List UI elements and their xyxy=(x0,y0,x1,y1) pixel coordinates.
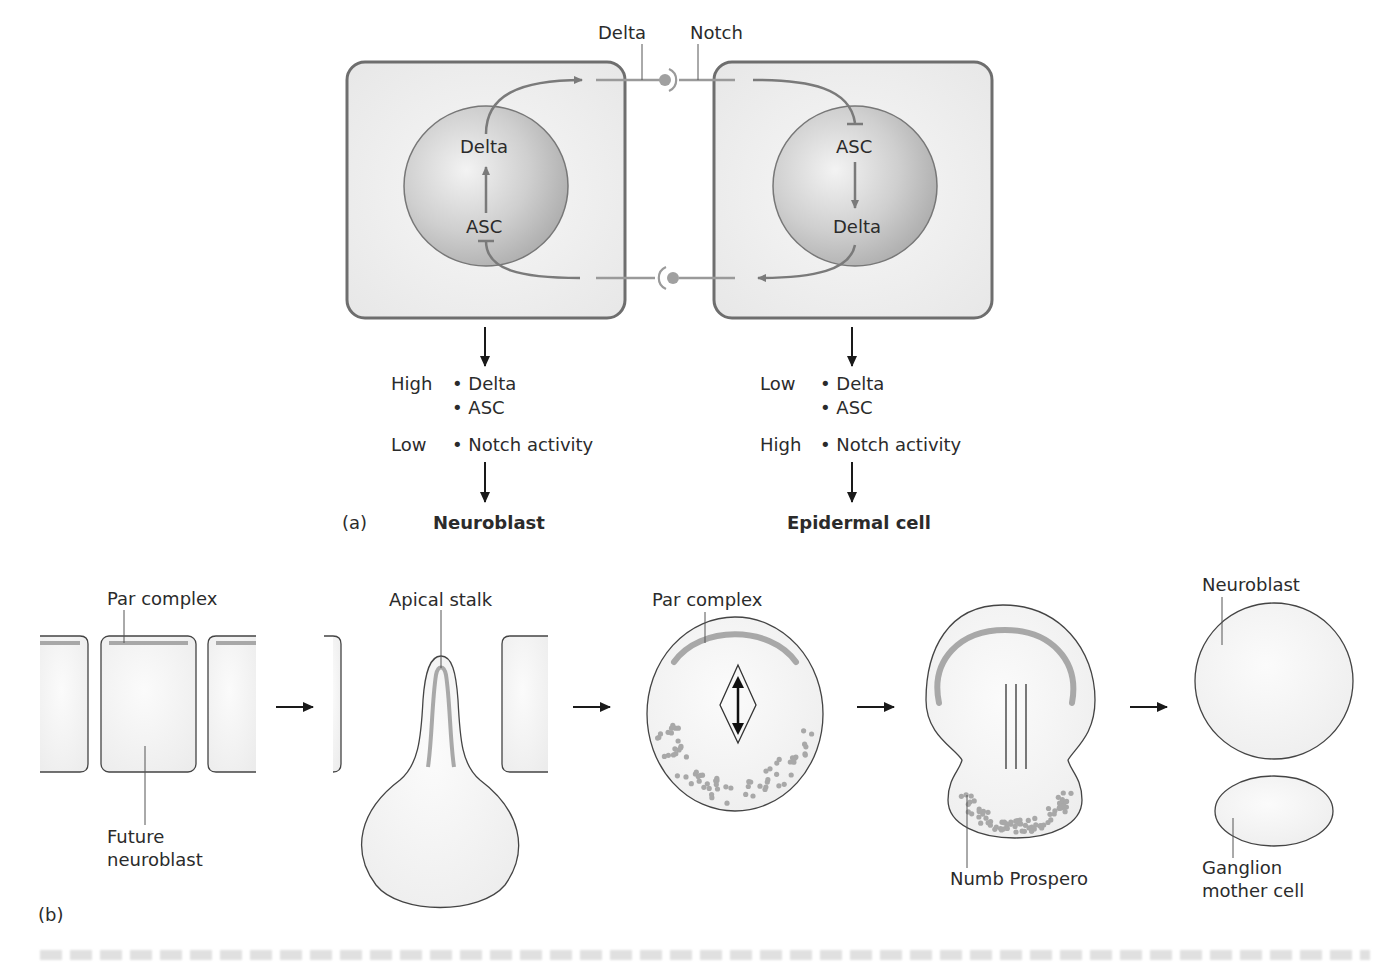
numb-prospero-dot xyxy=(676,738,681,743)
notch-receptor-cup-bottom xyxy=(659,267,666,289)
left-level-high: High xyxy=(391,373,432,394)
numb-prospero-dot xyxy=(669,730,674,735)
numb-prospero-dot xyxy=(803,744,808,749)
numb-prospero-dot xyxy=(969,811,974,816)
numb-prospero-dot xyxy=(765,777,770,782)
numb-prospero-dot xyxy=(801,728,806,733)
numb-prospero-dot xyxy=(992,827,997,832)
neuroblast-fate-label: Neuroblast xyxy=(433,512,545,533)
numb-prospero-dot xyxy=(675,773,680,778)
numb-prospero-dot xyxy=(1023,823,1028,828)
panel-a-label: (a) xyxy=(342,512,367,533)
numb-prospero-label: Numb Prospero xyxy=(950,868,1088,889)
numb-prospero-dot xyxy=(1068,791,1073,796)
right-item-asc: • ASC xyxy=(820,397,873,418)
numb-prospero-dot xyxy=(750,793,755,798)
numb-prospero-dot xyxy=(1020,829,1025,834)
right-item-delta: • Delta xyxy=(820,373,884,394)
left-level-low: Low xyxy=(391,434,426,455)
numb-prospero-dot xyxy=(705,781,710,786)
numb-prospero-dot xyxy=(697,779,702,784)
left-item-delta: • Delta xyxy=(452,373,516,394)
dividing-cell xyxy=(926,605,1095,838)
right-item-notch: • Notch activity xyxy=(820,434,961,455)
par-complex-label-2: Par complex xyxy=(652,589,762,610)
right-nucleus-asc-label: ASC xyxy=(836,136,872,157)
numb-prospero-dot xyxy=(672,746,677,751)
delta-ligand-head-top xyxy=(659,74,671,86)
numb-prospero-dot xyxy=(757,784,762,789)
numb-prospero-dot xyxy=(977,809,982,814)
numb-prospero-dot xyxy=(1026,818,1031,823)
numb-prospero-dot xyxy=(972,798,977,803)
numb-prospero-dot xyxy=(964,792,969,797)
numb-prospero-dot xyxy=(700,773,705,778)
stage-3-polarized-neuroblast xyxy=(647,612,823,811)
numb-prospero-dot xyxy=(748,780,753,785)
numb-prospero-dot xyxy=(774,772,779,777)
numb-prospero-dot xyxy=(986,820,991,825)
ganglion-label: Ganglion xyxy=(1202,857,1282,878)
numb-prospero-dot xyxy=(724,801,729,806)
left-item-notch: • Notch activity xyxy=(452,434,593,455)
notch-receptor-label: Notch xyxy=(690,22,743,43)
par-complex-label-1: Par complex xyxy=(107,588,217,609)
numb-prospero-dot xyxy=(776,783,781,788)
numb-prospero-dot xyxy=(983,816,988,821)
numb-prospero-dot xyxy=(1001,826,1006,831)
numb-prospero-dot xyxy=(671,752,676,757)
numb-prospero-dot xyxy=(777,757,782,762)
numb-prospero-dot xyxy=(743,792,748,797)
numb-prospero-dot xyxy=(803,753,808,758)
numb-prospero-dot xyxy=(683,774,688,779)
numb-prospero-dot xyxy=(1061,790,1066,795)
left-nucleus-asc-label: ASC xyxy=(466,216,502,237)
numb-prospero-dot xyxy=(1060,804,1065,809)
numb-prospero-dot xyxy=(728,785,733,790)
numb-prospero-dot xyxy=(959,794,964,799)
numb-prospero-dot xyxy=(763,784,768,789)
numb-prospero-dot xyxy=(809,731,814,736)
numb-prospero-dot xyxy=(689,781,694,786)
delaminating-cell xyxy=(362,656,519,908)
numb-prospero-dot xyxy=(1032,816,1037,821)
numb-prospero-dot xyxy=(985,810,990,815)
future-label: Future xyxy=(107,826,164,847)
stage-2-apical-stalk xyxy=(324,610,548,908)
delta-ligand-label: Delta xyxy=(598,22,646,43)
numb-prospero-dot xyxy=(1013,819,1018,824)
stage-5-daughter-cells xyxy=(1195,597,1353,858)
numb-prospero-dot xyxy=(1013,829,1018,834)
right-level-low: Low xyxy=(760,373,795,394)
numb-prospero-dot xyxy=(782,782,787,787)
neuroblast-daughter-label: Neuroblast xyxy=(1202,574,1300,595)
panel-b-label: (b) xyxy=(38,904,63,925)
delta-ligand-head-bottom xyxy=(667,272,679,284)
numb-prospero-dot xyxy=(658,731,663,736)
numb-prospero-dot xyxy=(1046,806,1051,811)
numb-prospero-dot xyxy=(1029,828,1034,833)
numb-prospero-dot xyxy=(676,726,681,731)
right-level-high: High xyxy=(760,434,801,455)
stage-1-epithelium xyxy=(40,610,256,825)
numb-prospero-dot xyxy=(714,782,719,787)
numb-prospero-dot xyxy=(791,760,796,765)
numb-prospero-dot xyxy=(662,754,667,759)
apical-stalk-label: Apical stalk xyxy=(389,589,492,610)
numb-prospero-dot xyxy=(684,754,689,759)
numb-prospero-dot xyxy=(709,792,714,797)
neuroblast-label-sub: neuroblast xyxy=(107,849,203,870)
numb-prospero-dot xyxy=(1037,823,1042,828)
numb-prospero-dot xyxy=(746,784,751,789)
numb-prospero-dot xyxy=(763,769,768,774)
figure-caption-cutoff xyxy=(40,950,1370,960)
numb-prospero-dot xyxy=(714,776,719,781)
numb-prospero-dot xyxy=(790,755,795,760)
neuroblast-daughter xyxy=(1195,603,1353,759)
numb-prospero-dot xyxy=(1001,820,1006,825)
right-nucleus-delta-label: Delta xyxy=(833,216,881,237)
future-neuroblast-cell xyxy=(101,636,196,772)
stage-4-dividing-neuroblast xyxy=(926,605,1095,868)
mother-cell-label: mother cell xyxy=(1202,880,1304,901)
left-nucleus-delta-label: Delta xyxy=(460,136,508,157)
